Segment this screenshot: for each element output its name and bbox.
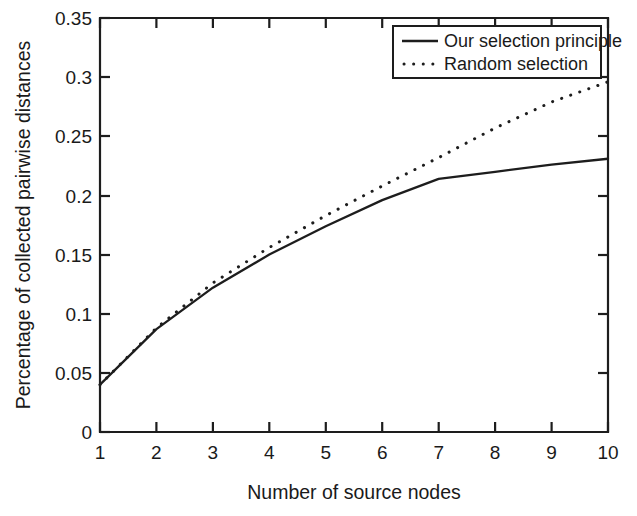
plot-axes bbox=[100, 18, 608, 432]
legend-label-0: Our selection principle bbox=[444, 31, 622, 51]
y-ticklabel-035: 0.35 bbox=[55, 8, 92, 29]
x-ticklabel-9: 9 bbox=[546, 442, 557, 463]
y-axis-tick-labels: 0 0.05 0.1 0.15 0.2 0.25 0.3 0.35 bbox=[55, 8, 92, 443]
legend: Our selection principle Random selection bbox=[393, 26, 622, 78]
x-axis-ticks bbox=[100, 422, 608, 432]
series-our-selection-principle bbox=[100, 159, 608, 385]
x-ticklabel-4: 4 bbox=[264, 442, 275, 463]
x-ticklabel-10: 10 bbox=[597, 442, 618, 463]
x-ticklabel-6: 6 bbox=[377, 442, 388, 463]
y-axis-ticks bbox=[100, 18, 110, 432]
y-ticklabel-02: 0.2 bbox=[66, 186, 92, 207]
x-axis-tick-labels: 1 2 3 4 5 6 7 8 9 10 bbox=[95, 442, 619, 463]
chart-svg: 0 0.05 0.1 0.15 0.2 0.25 0.3 0.35 bbox=[0, 0, 637, 516]
series-random-selection bbox=[100, 82, 608, 385]
x-ticklabel-2: 2 bbox=[151, 442, 162, 463]
x-ticklabel-8: 8 bbox=[490, 442, 501, 463]
axis-frame bbox=[100, 18, 608, 432]
y-ticklabel-0: 0 bbox=[81, 422, 92, 443]
x-ticklabel-1: 1 bbox=[95, 442, 106, 463]
y-ticklabel-025: 0.25 bbox=[55, 126, 92, 147]
x-ticklabel-5: 5 bbox=[321, 442, 332, 463]
y-axis-title: Percentage of collected pairwise distanc… bbox=[12, 40, 34, 409]
x-ticklabel-3: 3 bbox=[208, 442, 219, 463]
y-ticklabel-01: 0.1 bbox=[66, 304, 92, 325]
x-axis-title: Number of source nodes bbox=[247, 481, 461, 503]
y-ticklabel-015: 0.15 bbox=[55, 245, 92, 266]
y-ticklabel-03: 0.3 bbox=[66, 67, 92, 88]
x-ticklabel-7: 7 bbox=[433, 442, 444, 463]
legend-label-1: Random selection bbox=[444, 54, 588, 74]
chart-figure: 0 0.05 0.1 0.15 0.2 0.25 0.3 0.35 bbox=[0, 0, 637, 516]
y-axis-ticks-right bbox=[598, 77, 608, 373]
y-ticklabel-005: 0.05 bbox=[55, 363, 92, 384]
